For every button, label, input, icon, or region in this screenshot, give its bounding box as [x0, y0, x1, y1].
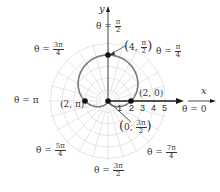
- tick-4: 4: [151, 103, 156, 113]
- point-label-pole: (0, 3π2): [119, 118, 152, 135]
- angle-label-3pi-2: θ = 3π2: [94, 163, 124, 178]
- angle-label-pi: θ = π: [14, 96, 39, 105]
- point-label-right: (2, 0): [139, 88, 163, 98]
- point-label-top: (4, π2): [124, 38, 152, 55]
- angle-label-pi-2: θ = π2: [96, 19, 121, 34]
- point-top: [105, 52, 111, 58]
- tick-5: 5: [162, 103, 167, 113]
- angle-label-pi-4: θ = π4: [156, 44, 181, 59]
- x-axis-label: x: [201, 85, 207, 96]
- angle-label-5pi-4: θ = 5π4: [36, 143, 66, 158]
- tick-2: 2: [129, 103, 134, 113]
- point-pole: [105, 98, 111, 104]
- angle-label-3pi-4: θ = 3π4: [34, 42, 64, 57]
- tick-1: 1: [117, 103, 122, 113]
- angle-label-0: θ = 0: [182, 105, 206, 114]
- y-axis-arrow-icon: [106, 6, 110, 12]
- tick-3: 3: [140, 103, 145, 113]
- angle-label-7pi-4: θ = 7π4: [147, 145, 177, 160]
- y-axis-label: y: [99, 3, 105, 14]
- x-axis-arrow-icon: [210, 99, 216, 103]
- point-label-left: (2, π): [60, 99, 84, 109]
- pointer-arrow-icon: [110, 51, 115, 55]
